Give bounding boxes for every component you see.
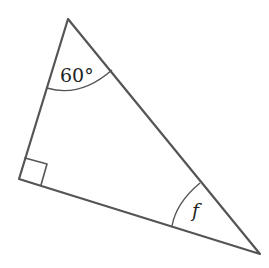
triangle-diagram: 60° f	[0, 0, 269, 268]
angle-label-60: 60°	[60, 64, 94, 86]
triangle-outline	[19, 19, 260, 254]
angle-label-f: f	[190, 199, 202, 221]
